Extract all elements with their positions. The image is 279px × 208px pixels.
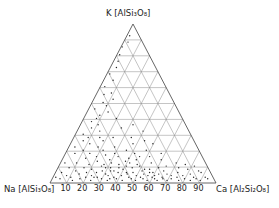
data-point (83, 140, 84, 141)
data-point (116, 178, 117, 179)
data-point (135, 180, 136, 181)
data-point (111, 162, 112, 163)
tick-label: 80 (177, 184, 187, 193)
data-point (102, 150, 103, 151)
data-point (117, 156, 118, 157)
data-point (162, 178, 163, 179)
data-point (117, 172, 118, 173)
data-point (207, 178, 208, 179)
vertex-label-top: K [AlSi₃O₈] (106, 8, 150, 18)
data-point (119, 54, 120, 55)
data-point (125, 161, 126, 162)
data-point (99, 130, 100, 131)
data-point (109, 159, 110, 160)
vertex-element-ca: Ca (216, 184, 227, 194)
data-point (200, 180, 201, 181)
data-point (85, 177, 86, 178)
data-point (75, 170, 76, 171)
data-point (66, 175, 67, 176)
data-point (147, 175, 148, 176)
data-point (129, 35, 130, 36)
tick-label: 40 (110, 184, 120, 193)
vertex-formula-na: [AlSi₃O₈] (18, 184, 54, 194)
data-point (96, 172, 97, 173)
data-point (106, 105, 107, 106)
data-point (163, 170, 164, 171)
data-point (149, 156, 150, 157)
tick-label: 90 (193, 184, 203, 193)
data-point (111, 92, 112, 93)
data-point (132, 143, 133, 144)
data-point (129, 162, 130, 163)
data-point (107, 180, 108, 181)
data-point (182, 175, 183, 176)
data-point (176, 162, 177, 163)
data-point (136, 159, 137, 160)
data-point (109, 73, 110, 74)
data-point (161, 177, 162, 178)
tick-label: 10 (61, 184, 71, 193)
data-point (132, 124, 133, 125)
grid-lines (58, 40, 207, 183)
data-point (113, 170, 114, 171)
data-point (72, 180, 73, 181)
data-point (126, 172, 127, 173)
data-point (90, 180, 91, 181)
tick-label: 60 (144, 184, 154, 193)
data-point (107, 111, 108, 112)
data-point (128, 158, 129, 159)
data-point (143, 173, 144, 174)
data-point (166, 165, 167, 166)
data-point (146, 150, 147, 151)
data-point (122, 169, 123, 170)
data-point (64, 162, 65, 163)
data-point (149, 169, 150, 170)
data-point (91, 121, 92, 122)
data-point (112, 137, 113, 138)
data-point (178, 167, 179, 168)
data-point (154, 175, 155, 176)
data-point (190, 173, 191, 174)
data-point (142, 130, 143, 131)
data-point (102, 102, 103, 103)
data-point (91, 169, 92, 170)
data-point (146, 180, 147, 181)
data-point (139, 156, 140, 157)
data-point (107, 175, 108, 176)
data-point (131, 178, 132, 179)
data-point (176, 177, 177, 178)
data-point (126, 165, 127, 166)
data-point (112, 80, 113, 81)
data-point (151, 177, 152, 178)
data-point (136, 175, 137, 176)
data-point (161, 159, 162, 160)
data-point (78, 173, 79, 174)
data-point (178, 180, 179, 181)
data-point (118, 164, 119, 165)
data-point (190, 180, 191, 181)
data-point (166, 173, 167, 174)
data-point (103, 164, 104, 165)
data-point (79, 178, 80, 179)
data-point (99, 137, 100, 138)
data-point (89, 153, 90, 154)
data-point (132, 172, 133, 173)
data-point (161, 153, 162, 154)
data-point (88, 137, 89, 138)
data-point (89, 143, 90, 144)
data-point (97, 146, 98, 147)
vertex-label-right: Ca [Al₂Si₂O₈] (216, 184, 269, 194)
data-point (144, 140, 145, 141)
data-point (113, 177, 114, 178)
data-point (74, 146, 75, 147)
tick-label: 30 (94, 184, 104, 193)
vertex-element-na: Na (4, 184, 16, 194)
ternary-diagram (0, 0, 279, 208)
data-point (83, 134, 84, 135)
data-point (131, 137, 132, 138)
data-point (193, 177, 194, 178)
data-point (91, 175, 92, 176)
data-point (141, 170, 142, 171)
data-point (101, 165, 102, 166)
data-point (126, 150, 127, 151)
